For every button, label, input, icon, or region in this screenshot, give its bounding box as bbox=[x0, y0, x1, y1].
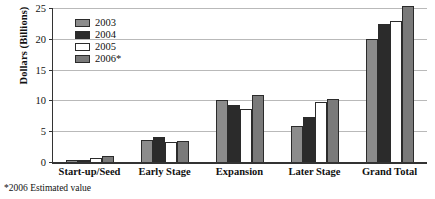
y-axis-tick-mark-5 bbox=[49, 131, 53, 132]
x-axis-label-start-up-seed: Start-up/Seed bbox=[52, 166, 127, 177]
legend-item-2004[interactable]: 2004 bbox=[75, 30, 121, 40]
chart-legend: 2003200420052006* bbox=[75, 18, 121, 64]
legend-swatch-icon-2003 bbox=[75, 19, 90, 27]
y-axis-tick-mark-0 bbox=[49, 162, 53, 163]
legend-item-2005[interactable]: 2005 bbox=[75, 42, 121, 52]
y-axis-tick-labels: 0510152025 bbox=[24, 8, 46, 164]
legend-swatch-icon-2006 bbox=[75, 55, 90, 63]
x-axis-line bbox=[53, 162, 427, 164]
y-axis-tick-mark-20 bbox=[49, 39, 53, 40]
x-axis-label-early-stage: Early Stage bbox=[127, 166, 202, 177]
bar-group-expansion bbox=[203, 8, 278, 162]
bar-2006-later-stage[interactable] bbox=[327, 99, 339, 162]
bar-2003-expansion[interactable] bbox=[216, 100, 228, 162]
bar-2005-early-stage[interactable] bbox=[165, 142, 177, 162]
legend-item-2003[interactable]: 2003 bbox=[75, 18, 121, 28]
x-axis-label-expansion: Expansion bbox=[202, 166, 277, 177]
y-axis-tick-label-5: 5 bbox=[41, 126, 46, 137]
bar-2006-grand-total[interactable] bbox=[402, 6, 414, 162]
x-axis-category-labels: Start-up/SeedEarly StageExpansionLater S… bbox=[52, 166, 427, 177]
y-axis-tick-label-0: 0 bbox=[41, 157, 46, 168]
legend-label-2003: 2003 bbox=[95, 18, 116, 28]
x-axis-label-grand-total: Grand Total bbox=[352, 166, 427, 177]
y-axis-tick-label-10: 10 bbox=[36, 95, 47, 106]
bar-2004-grand-total[interactable] bbox=[378, 24, 390, 162]
y-axis-tick-label-25: 25 bbox=[36, 3, 47, 14]
bar-2005-grand-total[interactable] bbox=[390, 21, 402, 162]
bar-2004-expansion[interactable] bbox=[228, 105, 240, 162]
bar-2003-later-stage[interactable] bbox=[291, 126, 303, 162]
legend-label-2005: 2005 bbox=[95, 42, 116, 52]
y-axis-tick-mark-15 bbox=[49, 70, 53, 71]
legend-swatch-icon-2005 bbox=[75, 43, 90, 51]
y-axis-tick-mark-10 bbox=[49, 100, 53, 101]
bar-group-later-stage bbox=[277, 8, 352, 162]
bar-2003-grand-total[interactable] bbox=[366, 39, 378, 162]
y-axis-tick-label-20: 20 bbox=[36, 33, 47, 44]
legend-swatch-icon-2004 bbox=[75, 31, 90, 39]
chart-footnote: *2006 Estimated value bbox=[4, 183, 91, 193]
bar-group-grand-total bbox=[352, 8, 427, 162]
bar-chart: Dollars (Billions) 0510152025 Start-up/S… bbox=[0, 0, 435, 199]
bar-2005-expansion[interactable] bbox=[240, 109, 252, 162]
bar-2004-early-stage[interactable] bbox=[153, 137, 165, 162]
legend-item-2006[interactable]: 2006* bbox=[75, 54, 121, 64]
bar-2003-early-stage[interactable] bbox=[141, 140, 153, 162]
bar-2006-early-stage[interactable] bbox=[177, 141, 189, 162]
bar-2006-expansion[interactable] bbox=[252, 95, 264, 162]
y-axis-tick-label-15: 15 bbox=[36, 64, 47, 75]
bar-2004-later-stage[interactable] bbox=[303, 117, 315, 162]
bar-group-early-stage bbox=[128, 8, 203, 162]
x-axis-label-later-stage: Later Stage bbox=[277, 166, 352, 177]
bar-2005-later-stage[interactable] bbox=[315, 102, 327, 162]
legend-label-2004: 2004 bbox=[95, 30, 116, 40]
y-axis-tick-mark-25 bbox=[49, 8, 53, 9]
legend-label-2006: 2006* bbox=[95, 54, 121, 64]
